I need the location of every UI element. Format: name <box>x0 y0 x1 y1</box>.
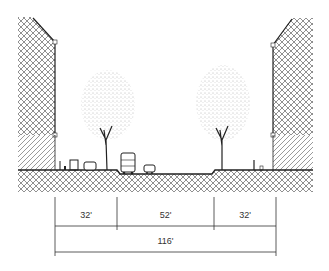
car-parked-left <box>84 162 96 170</box>
street-section-diagram <box>0 0 329 271</box>
dimension-label-right-sidewalk: 32' <box>214 210 276 220</box>
dimension-lines <box>55 197 276 256</box>
pedestrians-left <box>60 160 78 170</box>
pedestrian-right <box>254 160 263 170</box>
right-building <box>271 18 313 170</box>
left-building <box>18 17 57 170</box>
car <box>144 165 155 174</box>
bus <box>121 153 135 174</box>
dimension-label-roadway: 52' <box>117 210 214 220</box>
tree-right <box>196 65 250 170</box>
dimension-label-total: 116' <box>55 236 276 246</box>
dimension-label-left-sidewalk: 32' <box>55 210 117 220</box>
ground-section <box>18 170 313 192</box>
